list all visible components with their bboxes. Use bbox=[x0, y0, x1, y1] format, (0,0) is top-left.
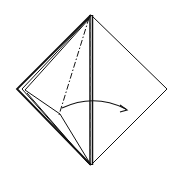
right-panel bbox=[91, 15, 167, 165]
origami-diagram bbox=[0, 0, 175, 179]
left-flaps bbox=[17, 15, 91, 165]
fold-arrow-icon bbox=[62, 101, 127, 112]
center-edge bbox=[90, 15, 93, 165]
